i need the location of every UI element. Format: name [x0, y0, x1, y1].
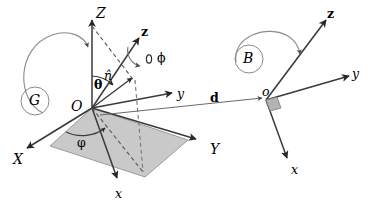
body-axis-z-left [92, 38, 139, 108]
body-axis-label-z-left: z [141, 26, 148, 39]
body-axis-label-z-right: z [327, 8, 334, 21]
angle-label-theta: θ [94, 79, 102, 92]
body-axis-y-left [92, 93, 172, 108]
angle-label-phi-spin: ϕ [157, 52, 166, 65]
axis-label-Y: Y [210, 142, 219, 156]
angle-label-phi-azimuth: φ [77, 137, 86, 150]
body-axis-label-x-right: x [291, 164, 298, 177]
figure-vector-graphics [0, 0, 371, 210]
phi-spin-axis-dot [146, 55, 151, 63]
vector-label-d: d [210, 92, 219, 105]
figure-canvas: Z X Y O z y x θ φ ϕ n̂ G B d o z y x [0, 0, 371, 210]
origin-label-O: O [71, 99, 82, 113]
frame-badge-label-B: B [243, 51, 253, 65]
right-angle-marker [266, 97, 281, 111]
axis-label-Z: Z [96, 6, 106, 20]
angle-arc-phi-spin [128, 47, 140, 66]
unit-normal-label: n̂ [104, 70, 112, 83]
body-axis-label-y-right: y [352, 68, 359, 81]
body-axis-label-y-left: y [177, 88, 184, 101]
axis-label-X: X [13, 152, 23, 166]
origin-label-o-right: o [262, 86, 270, 99]
body-axis-y-right [266, 76, 349, 100]
frame-badge-label-G: G [29, 93, 40, 107]
body-axis-label-x-left: x [115, 188, 122, 201]
